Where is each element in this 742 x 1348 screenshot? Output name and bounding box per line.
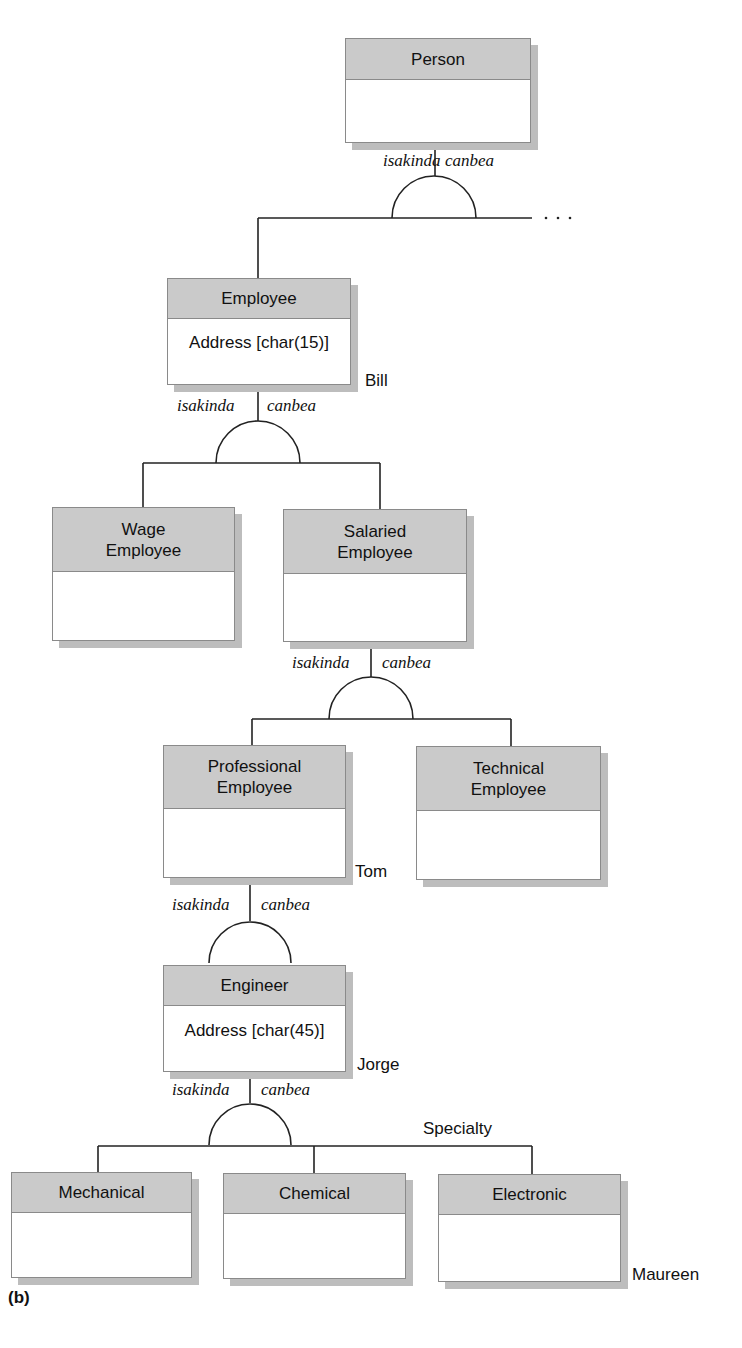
entity-electronic-name: Electronic [439,1175,620,1215]
name-line: Employee [106,540,182,561]
entity-mechanical: Mechanical [11,1172,192,1278]
entity-employee-attribute: Address [char(15)] [168,319,350,353]
name-line: Employee [337,542,413,563]
entity-chemical: Chemical [223,1173,406,1279]
isakinda-label: isakinda [292,653,350,673]
entity-engineer-attribute: Address [char(45)] [164,1006,345,1041]
isakinda-label: isakinda [172,1080,230,1100]
isakinda-label: isakinda [172,895,230,915]
name-line: Professional [208,756,302,777]
entity-professional-employee: Professional Employee [163,745,346,878]
entity-mechanical-name: Mechanical [12,1173,191,1213]
entity-technical-employee: Technical Employee [416,746,601,880]
name-line: Employee [471,779,547,800]
entity-person-name: Person [346,39,530,80]
entity-engineer: Engineer Address [char(45)] [163,965,346,1072]
entity-wage-employee-name: Wage Employee [53,508,234,572]
entity-technical-employee-name: Technical Employee [417,747,600,811]
entity-wage-employee: Wage Employee [52,507,235,641]
name-line: Employee [217,777,293,798]
figure-label: (b) [8,1288,30,1308]
instance-tom: Tom [355,862,387,882]
entity-chemical-name: Chemical [224,1174,405,1214]
name-line: Wage [122,519,166,540]
connector-lines [0,0,742,1348]
canbea-label: canbea [267,396,316,416]
entity-electronic: Electronic [438,1174,621,1282]
canbea-label: canbea [445,151,494,171]
canbea-label: canbea [261,1080,310,1100]
instance-jorge: Jorge [357,1055,400,1075]
entity-salaried-employee: Salaried Employee [283,509,467,642]
instance-maureen: Maureen [632,1265,699,1285]
canbea-label: canbea [261,895,310,915]
discriminator-specialty: Specialty [423,1119,492,1139]
entity-salaried-employee-name: Salaried Employee [284,510,466,574]
entity-professional-employee-name: Professional Employee [164,746,345,809]
entity-person: Person [345,38,531,143]
entity-engineer-name: Engineer [164,966,345,1006]
entity-employee-name: Employee [168,279,350,319]
entity-employee: Employee Address [char(15)] [167,278,351,385]
name-line: Technical [473,758,544,779]
name-line: Salaried [344,521,406,542]
instance-bill: Bill [365,371,388,391]
isakinda-label: isakinda [383,151,441,171]
isakinda-label: isakinda [177,396,235,416]
canbea-label: canbea [382,653,431,673]
